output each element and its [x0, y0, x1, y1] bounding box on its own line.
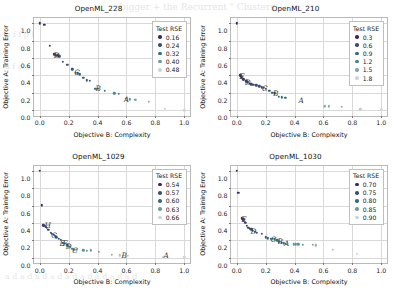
point-annotation-C: C: [262, 84, 268, 93]
data-point: [127, 254, 129, 256]
data-point: [237, 192, 239, 194]
x-tick-mark: [352, 116, 353, 118]
y-tick-label: 0.8: [21, 44, 31, 51]
point-annotation-H: H: [44, 221, 50, 230]
point-annotation-A: A: [284, 238, 289, 247]
legend-swatch-icon: [355, 191, 359, 195]
legend-label: 1.8: [363, 75, 373, 82]
legend-label: 0.75: [363, 189, 377, 196]
y-tick-mark: [32, 258, 34, 259]
legend: Test RSE0.30.60.91.21.51.8: [349, 21, 384, 86]
x-tick-label: 0.0: [35, 267, 45, 274]
legend-swatch-icon: [355, 52, 359, 56]
x-tick-mark: [98, 263, 99, 265]
y-tick-mark: [229, 110, 231, 111]
x-axis-label: Objective B: Complexity: [230, 278, 388, 286]
data-point: [340, 106, 342, 108]
data-point: [261, 233, 263, 235]
panel-title: OpenML_1029: [0, 152, 197, 161]
data-point: [284, 96, 286, 98]
x-tick-label: 0.8: [150, 267, 160, 274]
y-tick-mark: [32, 223, 34, 224]
x-tick-label: 0.0: [35, 119, 45, 126]
legend-swatch-icon: [355, 199, 359, 203]
y-tick-label: 1.0: [218, 27, 228, 34]
x-tick-label: 0.4: [290, 119, 300, 126]
y-axis-label-text: Objective A: Training Error: [199, 172, 207, 256]
y-tick-label: 0.6: [218, 209, 228, 216]
data-point: [297, 243, 299, 245]
data-point: [148, 100, 150, 102]
legend-row: 0.90: [353, 213, 379, 221]
y-tick-mark: [32, 23, 34, 24]
point-annotation-D: D: [54, 50, 60, 59]
x-tick-mark: [352, 263, 353, 265]
y-tick-label: 0.4: [218, 226, 228, 233]
x-tick-label: 0.6: [319, 267, 329, 274]
data-point: [314, 244, 316, 246]
data-point: [129, 98, 131, 100]
legend: Test RSE0.540.570.600.630.66: [152, 169, 187, 226]
data-point: [82, 77, 84, 79]
x-tick-mark: [126, 116, 127, 118]
legend-label: 0.24: [166, 42, 180, 49]
legend-label: 0.32: [166, 50, 180, 57]
legend-row: 0.54: [156, 181, 182, 189]
x-tick-label: 1.0: [376, 267, 386, 274]
y-tick-mark: [32, 240, 34, 241]
y-tick-label: 0.6: [21, 62, 31, 69]
x-tick-label: 0.8: [347, 267, 357, 274]
data-point: [82, 249, 84, 251]
gridline-horizontal: [34, 240, 190, 241]
x-tick-mark: [155, 116, 156, 118]
point-annotation-C: C: [271, 235, 277, 244]
legend-label: 0.57: [166, 189, 180, 196]
gridline-horizontal: [231, 240, 387, 241]
x-tick-label: 0.4: [290, 267, 300, 274]
legend-swatch-icon: [158, 207, 162, 211]
x-axis-label: Objective B: Complexity: [33, 131, 191, 139]
y-tick-label: 1.0: [21, 27, 31, 34]
legend-label: 0.80: [363, 197, 377, 204]
y-tick-mark: [229, 206, 231, 207]
x-tick-mark: [295, 263, 296, 265]
y-axis-label: Objective A: Training Error: [198, 17, 208, 117]
point-annotation-B: B: [273, 89, 278, 98]
chart-panel-0: OpenML_228Objective A: Training ErrorObj…: [0, 0, 197, 148]
data-point: [98, 250, 100, 252]
legend-row: 1.8: [353, 74, 379, 82]
legend-row: 0.57: [156, 189, 182, 197]
plot-area: 0.00.00.20.20.40.40.60.60.80.81.01.0ABCD…: [230, 165, 388, 265]
plot-area: 0.00.00.20.20.40.40.60.60.80.81.01.0ABCD…: [230, 17, 388, 117]
x-tick-mark: [126, 263, 127, 265]
y-tick-label: 0.2: [21, 244, 31, 251]
legend-swatch-icon: [158, 199, 162, 203]
legend-label: 0.9: [363, 50, 373, 57]
legend-row: 0.66: [156, 213, 182, 221]
legend-row: 1.2: [353, 58, 379, 66]
y-axis-label: Objective A: Training Error: [198, 165, 208, 265]
y-tick-label: 0.2: [21, 96, 31, 103]
legend-label: 0.66: [166, 214, 180, 221]
legend-row: 0.63: [156, 205, 182, 213]
data-point: [104, 89, 106, 91]
x-tick-mark: [381, 116, 382, 118]
legend-swatch-icon: [355, 43, 359, 47]
data-point: [71, 68, 73, 70]
panel-title: OpenML_1030: [197, 152, 394, 161]
data-point: [49, 45, 51, 47]
y-tick-mark: [32, 206, 34, 207]
x-tick-mark: [40, 116, 41, 118]
legend-swatch-icon: [355, 207, 359, 211]
y-tick-label: 0.6: [218, 62, 228, 69]
x-tick-mark: [69, 116, 70, 118]
y-tick-label: 0.0: [218, 261, 228, 268]
gridline-vertical: [237, 166, 238, 264]
legend-row: 0.24: [156, 41, 182, 49]
legend-row: 0.60: [156, 197, 182, 205]
point-annotation-G: G: [51, 231, 57, 240]
legend-swatch-icon: [355, 216, 359, 220]
y-tick-mark: [32, 188, 34, 189]
legend-label: 0.6: [363, 42, 373, 49]
y-tick-label: 1.0: [21, 174, 31, 181]
